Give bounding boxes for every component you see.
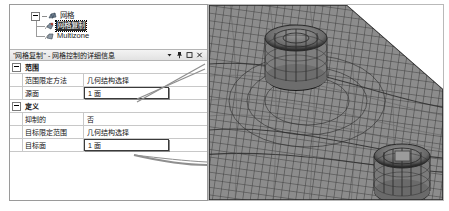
property-row[interactable]: 目标限定范围 几何结构选择 <box>10 126 207 139</box>
details-panel-titlebar: "网格复制" - 网格控制的详细信息 <box>10 49 207 61</box>
property-name: 范围限定方法 <box>23 74 84 86</box>
property-value-source-face[interactable]: 1 面 <box>84 87 169 99</box>
property-value-target-face[interactable]: 1 面 <box>84 139 169 151</box>
property-row[interactable]: 范围限定方法 几何结构选择 <box>10 74 207 87</box>
mesh-graphics <box>209 5 443 200</box>
screenshot-root: 网格 网格复制 M <box>0 0 449 211</box>
property-name: 抑制的 <box>23 113 84 125</box>
source-face-hole <box>265 25 327 91</box>
tree-item-mesh[interactable]: 网格 <box>31 11 75 21</box>
mesh-icon <box>48 12 57 20</box>
tree-item-label: 网格 <box>59 11 75 21</box>
row-gutter <box>10 139 23 151</box>
property-name: 目标限定范围 <box>23 126 84 138</box>
tree-item-mesh-copy[interactable]: 网格复制 <box>45 21 86 31</box>
property-name: 目标面 <box>23 139 84 151</box>
row-gutter <box>10 113 23 125</box>
property-name: 源面 <box>23 87 84 99</box>
details-panel: 网格 网格复制 M <box>9 4 208 201</box>
chevron-down-icon[interactable] <box>166 51 173 59</box>
property-value[interactable]: 几何结构选择 <box>84 74 207 86</box>
tree-item-multizone[interactable]: Multizone <box>45 31 90 41</box>
close-icon[interactable] <box>196 51 203 59</box>
property-row[interactable]: 抑制的 否 <box>10 113 207 126</box>
property-value[interactable]: 几何结构选择 <box>84 126 207 138</box>
property-grid: 范围 范围限定方法 几何结构选择 源面 1 面 定义 抑制 <box>10 61 207 152</box>
property-group-header[interactable]: 定义 <box>10 100 207 113</box>
property-value[interactable]: 否 <box>84 113 207 125</box>
pin-icon[interactable] <box>176 51 183 59</box>
details-panel-title: "网格复制" - 网格控制的详细信息 <box>13 50 166 60</box>
maximize-icon[interactable] <box>186 51 193 59</box>
group-expander-icon[interactable] <box>12 102 21 111</box>
group-expander-cell[interactable] <box>10 100 23 112</box>
tree-expander-icon[interactable] <box>31 12 40 21</box>
row-gutter <box>10 87 23 99</box>
property-group-label: 定义 <box>23 100 207 112</box>
row-gutter <box>10 126 23 138</box>
group-expander-cell[interactable] <box>10 61 23 73</box>
tree-dash <box>42 16 47 17</box>
outline-tree: 网格 网格复制 M <box>10 5 207 47</box>
details-panel-buttons <box>166 51 203 59</box>
tree-item-label: 网格复制 <box>56 21 86 31</box>
group-expander-icon[interactable] <box>12 63 21 72</box>
property-row[interactable]: 目标面 1 面 <box>10 139 207 152</box>
tree-item-label: Multizone <box>56 31 90 41</box>
target-face-hole <box>374 144 430 200</box>
multizone-icon <box>45 32 54 40</box>
mesh-viewport[interactable] <box>208 4 444 201</box>
property-row[interactable]: 源面 1 面 <box>10 87 207 100</box>
row-gutter <box>10 74 23 86</box>
mesh-copy-icon <box>45 22 54 30</box>
property-group-header[interactable]: 范围 <box>10 61 207 74</box>
property-group-label: 范围 <box>23 61 207 73</box>
